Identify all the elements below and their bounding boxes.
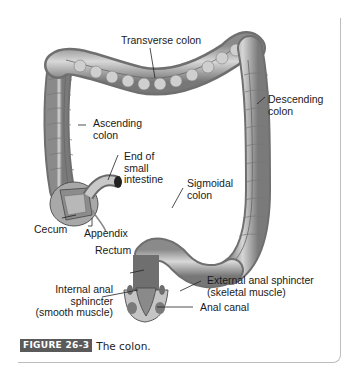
descending-colon-shape bbox=[228, 48, 258, 272]
label-end-of-small-intestine: End of small intestine bbox=[124, 151, 163, 186]
caption-text: The colon. bbox=[96, 340, 150, 352]
label-appendix: Appendix bbox=[84, 228, 128, 240]
label-external-anal-sphincter: External anal sphincter (skeletal muscle… bbox=[207, 275, 314, 298]
colon-illustration bbox=[0, 0, 358, 385]
label-transverse-colon: Transverse colon bbox=[121, 35, 201, 47]
figure-tag: FIGURE 26-3 bbox=[20, 339, 92, 352]
figure-caption: FIGURE 26-3 The colon. bbox=[20, 339, 151, 352]
anal-sphincter-shape bbox=[124, 285, 168, 322]
label-internal-anal-sphincter: Internal anal sphincter (smooth muscle) bbox=[35, 284, 113, 319]
label-descending-colon: Descending colon bbox=[268, 94, 323, 117]
ascending-colon-shape bbox=[56, 65, 68, 190]
label-cecum: Cecum bbox=[34, 224, 67, 236]
label-sigmoidal-colon: Sigmoidal colon bbox=[187, 178, 233, 201]
label-ascending-colon: Ascending colon bbox=[93, 118, 142, 141]
label-rectum: Rectum bbox=[95, 245, 131, 257]
label-anal-canal: Anal canal bbox=[200, 302, 249, 314]
